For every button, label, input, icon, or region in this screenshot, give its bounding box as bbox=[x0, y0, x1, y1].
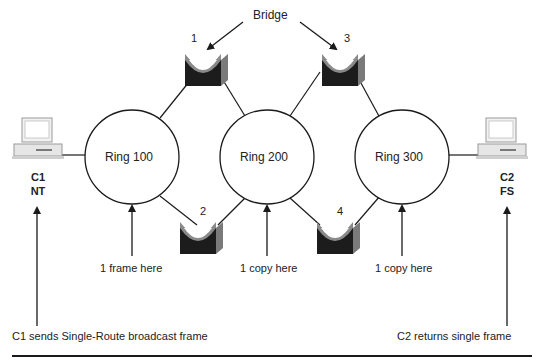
host-c1-name: C1 bbox=[28, 170, 48, 184]
host-c1-label: C1 NT bbox=[28, 170, 48, 198]
bridge-4-icon bbox=[317, 222, 360, 254]
bridge-label: Bridge bbox=[253, 8, 288, 22]
ring-100-label: Ring 100 bbox=[105, 150, 153, 164]
ring-100-note: 1 frame here bbox=[100, 262, 162, 274]
ring-200-label: Ring 200 bbox=[240, 150, 288, 164]
host-c2-label: C2 FS bbox=[497, 170, 517, 198]
bridge-2-number: 2 bbox=[200, 205, 206, 217]
bridge-1-number: 1 bbox=[191, 32, 197, 44]
bridge-1-icon bbox=[185, 54, 228, 86]
bridge-2-icon bbox=[180, 222, 223, 254]
ring-300-note: 1 copy here bbox=[375, 262, 432, 274]
pc-c1-icon bbox=[12, 118, 64, 159]
ring-200-note: 1 copy here bbox=[240, 262, 297, 274]
c2-caption: C2 returns single frame bbox=[397, 330, 511, 342]
bridge-4-number: 4 bbox=[337, 205, 343, 217]
bridge-arrows bbox=[208, 22, 336, 49]
bridge-3-icon bbox=[322, 54, 365, 86]
host-c1-os: NT bbox=[28, 184, 48, 198]
diagram-canvas bbox=[0, 0, 544, 362]
c1-caption: C1 sends Single-Route broadcast frame bbox=[12, 330, 208, 342]
host-c2-name: C2 bbox=[497, 170, 517, 184]
host-c2-os: FS bbox=[497, 184, 517, 198]
pc-c2-icon bbox=[476, 118, 528, 159]
bridge-3-number: 3 bbox=[344, 32, 350, 44]
ring-300-label: Ring 300 bbox=[375, 150, 423, 164]
